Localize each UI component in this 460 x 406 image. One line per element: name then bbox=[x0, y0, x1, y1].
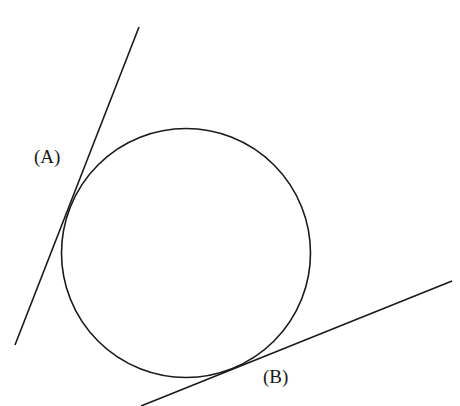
tangent-line-b bbox=[141, 281, 452, 406]
diagram-canvas bbox=[0, 0, 460, 406]
label-a: (A) bbox=[34, 146, 60, 168]
tangent-line-a bbox=[15, 27, 139, 345]
label-b: (B) bbox=[263, 366, 288, 388]
circle bbox=[62, 129, 311, 378]
